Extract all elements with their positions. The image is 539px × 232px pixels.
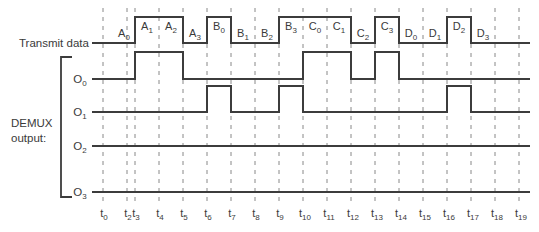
time-label-t3: t3 (132, 207, 140, 222)
bit-label-c0: C0 (309, 20, 322, 35)
bit-label-d0: D0 (405, 27, 418, 42)
transmit-data-label: Transmit data (19, 37, 89, 49)
demux-label-line1: DEMUX (11, 117, 53, 129)
time-label-t19: t19 (515, 207, 528, 222)
time-label-t11: t11 (323, 207, 335, 222)
output-o2-label: O2 (73, 140, 87, 155)
bit-label-c2: C2 (357, 27, 370, 42)
time-label-t6: t6 (204, 207, 212, 222)
bit-label-d2: D2 (453, 20, 466, 35)
demux-label-line2: output: (11, 132, 46, 144)
time-label-t0: t0 (100, 207, 108, 222)
demux-output-bracket (61, 57, 72, 197)
time-gridlines (103, 8, 519, 204)
bit-label-a0: A0 (118, 27, 130, 42)
output-o0-signal (92, 52, 530, 79)
bit-label-a2: A2 (165, 20, 177, 35)
timing-diagram-canvas: Transmit data A0A1A2A3B0B1B2B3C0C1C2C3D0… (0, 0, 539, 232)
bit-label-d1: D1 (429, 27, 442, 42)
time-label-t2: t2 (124, 207, 132, 222)
demux-timing-diagram: Transmit data A0A1A2A3B0B1B2B3C0C1C2C3D0… (0, 0, 539, 232)
bit-label-b1: B1 (237, 27, 249, 42)
time-label-t17: t17 (467, 207, 480, 222)
time-axis-labels: t0t2t3t4t5t6t7t8t9t10t11t12t13t14t15t16t… (100, 207, 527, 222)
transmit-data-waveform: Transmit data A0A1A2A3B0B1B2B3C0C1C2C3D0… (19, 17, 530, 49)
bit-label-b3: B3 (285, 20, 297, 35)
time-label-t5: t5 (180, 207, 188, 222)
output-o1-label: O1 (73, 106, 87, 121)
output-o1-signal (92, 86, 530, 112)
output-o0-label: O0 (73, 73, 87, 88)
time-label-t4: t4 (156, 207, 164, 222)
time-label-t9: t9 (276, 207, 284, 222)
bit-label-a3: A3 (189, 27, 201, 42)
time-label-t15: t15 (419, 207, 432, 222)
time-label-t7: t7 (228, 207, 236, 222)
bit-label-c3: C3 (381, 20, 394, 35)
bit-label-a1: A1 (141, 20, 153, 35)
time-label-t16: t16 (443, 207, 456, 222)
bit-label-b0: B0 (213, 20, 225, 35)
time-label-t12: t12 (347, 207, 360, 222)
time-label-t10: t10 (299, 207, 312, 222)
time-label-t18: t18 (491, 207, 504, 222)
output-o3-label: O3 (73, 186, 87, 201)
bit-label-b2: B2 (261, 27, 273, 42)
time-label-t14: t14 (395, 207, 408, 222)
time-label-t13: t13 (371, 207, 384, 222)
bit-label-c1: C1 (333, 20, 346, 35)
bit-label-d3: D3 (477, 27, 490, 42)
demux-output-waveforms: DEMUX output: O0O1O2O3 (11, 52, 530, 201)
time-label-t8: t8 (252, 207, 260, 222)
